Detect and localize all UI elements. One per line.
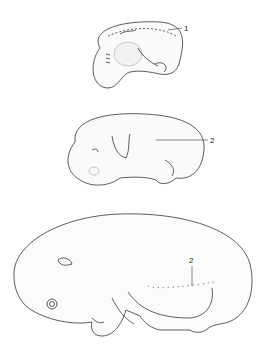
label-2a: 2: [210, 136, 215, 145]
embryo-stage-1: [93, 22, 183, 88]
label-1: 1: [184, 24, 189, 33]
label-2b: 2: [189, 256, 194, 265]
embryo-stage-3: [14, 214, 252, 336]
embryo-figure: 1 2 2: [0, 0, 268, 347]
embryo-stage-2: [68, 114, 204, 185]
